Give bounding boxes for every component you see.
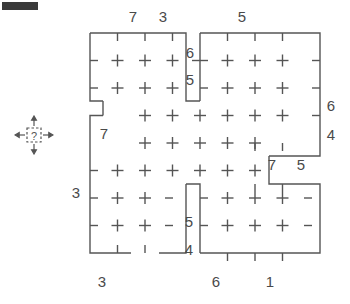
edge-label-inner-3: 7 (100, 126, 108, 141)
edge-label-inner-7: 4 (185, 242, 193, 257)
edge-label-left-1: 3 (72, 185, 80, 200)
edge-label-inner-6: 5 (185, 214, 193, 229)
edge-label-inner-1: 6 (186, 45, 194, 60)
puzzle-canvas: ? (0, 0, 350, 304)
edge-label-bottom-1: 3 (98, 274, 106, 289)
edge-label-top-3: 5 (238, 9, 246, 24)
boundary-ticks (90, 33, 320, 261)
edge-label-inner-5: 5 (297, 157, 305, 172)
edge-label-inner-4: 7 (268, 157, 276, 172)
edge-label-right-1: 6 (327, 98, 335, 113)
edge-label-right-2: 4 (327, 127, 335, 142)
lattice-polygon-figure (0, 0, 350, 304)
edge-label-top-2: 3 (159, 9, 167, 24)
edge-label-bottom-3: 1 (266, 274, 274, 289)
cross-row-3 (139, 110, 289, 122)
edge-label-bottom-2: 6 (212, 274, 220, 289)
edge-label-top-1: 7 (129, 9, 137, 24)
edge-label-inner-2: 5 (186, 72, 194, 87)
cross-row-5 (112, 165, 262, 177)
cross-row-4 (139, 137, 261, 149)
